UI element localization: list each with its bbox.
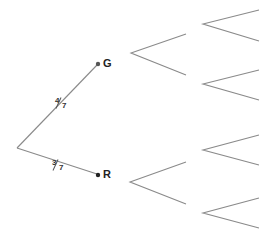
node-g-dot (96, 62, 100, 66)
branch-pair-3c (203, 135, 259, 165)
branch-pair-3d (203, 198, 259, 228)
fraction-denominator: 7 (62, 101, 66, 110)
probability-r-fraction: 3 7 (52, 158, 66, 172)
probability-tree-diagram: G R 4 7 3 7 (0, 0, 276, 241)
branch-pair-g (131, 34, 186, 75)
branch-pair-3a (203, 10, 259, 41)
branch-pair-3b (203, 70, 259, 100)
node-r-dot (96, 173, 100, 177)
probability-g-fraction: 4 7 (55, 96, 69, 110)
tree-edges (0, 0, 276, 241)
node-label-r: R (103, 168, 111, 180)
fraction-denominator: 7 (59, 163, 63, 172)
node-label-g: G (103, 57, 112, 69)
branch-pair-r (130, 162, 186, 204)
